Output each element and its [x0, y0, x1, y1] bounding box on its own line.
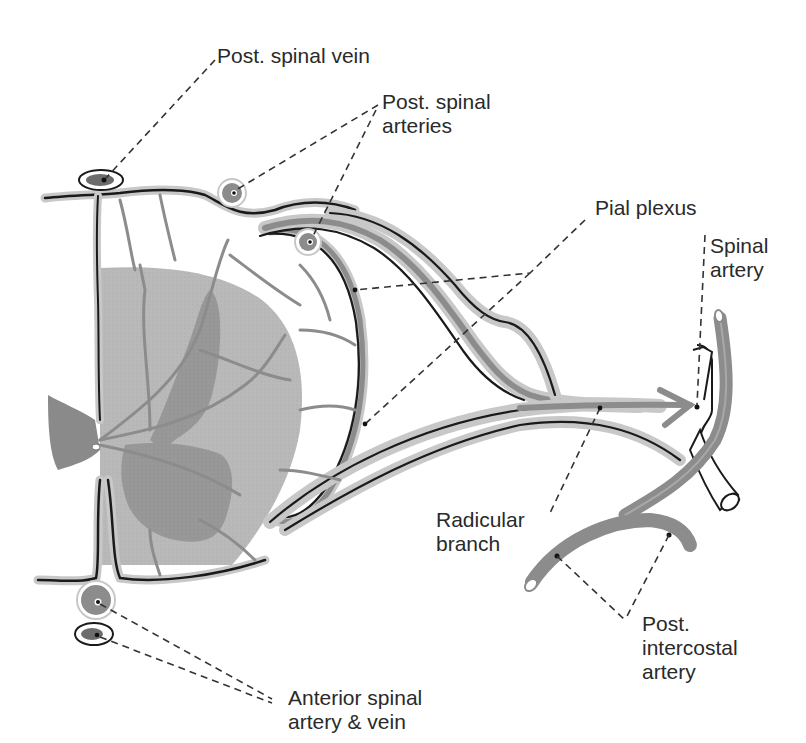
post-spinal-artery-section-1 [218, 179, 246, 207]
label-post-spinal-vein: Post. spinal vein [217, 44, 370, 68]
anterior-spinal-vein-section [75, 623, 113, 645]
label-spinal-artery: Spinal artery [710, 234, 768, 282]
anterior-spinal-artery-section [77, 581, 115, 619]
leader-intercostal-2 [625, 535, 669, 620]
label-radicular-branch: Radicular branch [436, 508, 525, 556]
label-post-spinal-arteries: Post. spinal arteries [382, 90, 491, 138]
leader-intercostal-1 [557, 556, 625, 620]
leader-anterior-vein [100, 637, 272, 703]
label-pial-plexus: Pial plexus [595, 196, 697, 220]
post-spinal-artery-section-2 [295, 229, 321, 255]
leader-anterior-artery [100, 604, 272, 699]
label-post-intercostal-artery: Post. intercostal artery [642, 612, 738, 684]
radicular-branch-vessel [520, 405, 690, 408]
post-spinal-vein-section [79, 170, 123, 190]
leader-post-spinal-vein [106, 60, 215, 178]
label-anterior-spinal-artery-vein: Anterior spinal artery & vein [288, 686, 422, 734]
